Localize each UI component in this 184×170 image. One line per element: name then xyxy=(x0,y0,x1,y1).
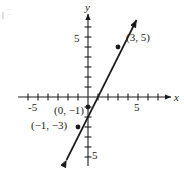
y-axis xyxy=(85,14,92,166)
tick-label-y-negative-five: 5 xyxy=(92,150,98,161)
x-axis xyxy=(18,94,171,101)
point-marker-0-neg1 xyxy=(86,105,91,110)
point-marker-3-5 xyxy=(116,45,121,50)
point-label-0-neg1: (0, −1) xyxy=(54,105,84,116)
scan-artifact xyxy=(2,9,11,19)
point-marker-neg1-neg3 xyxy=(76,125,81,130)
point-label-neg1-neg3: (−1, −3) xyxy=(31,120,67,131)
tick-label-x-positive-five: 5 xyxy=(134,102,140,113)
point-label-3-5: (3, 5) xyxy=(126,32,150,43)
coordinate-plane-figure: y x 5 5 -5 5 (3, 5) (0, −1) (−1, −3) xyxy=(0,0,184,170)
tick-label-x-negative-five: -5 xyxy=(28,102,37,113)
tick-label-y-positive-five: 5 xyxy=(74,33,80,44)
x-axis-label: x xyxy=(174,92,179,103)
graph-canvas xyxy=(0,0,184,170)
plotted-points xyxy=(76,45,121,130)
y-axis-label: y xyxy=(85,2,90,13)
